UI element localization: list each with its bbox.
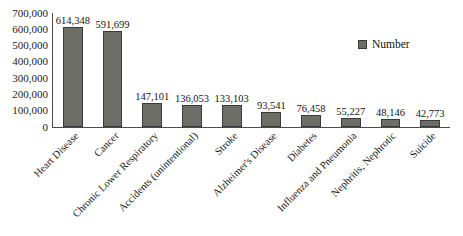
bar-chart: 700,000600,000500,000400,000300,000200,0… — [0, 0, 463, 236]
legend-label-number: Number — [372, 38, 410, 50]
chart-legend: Number — [358, 38, 410, 50]
legend-swatch-number — [358, 40, 367, 49]
x-axis: Heart DiseaseCancerChronic Lower Respira… — [0, 0, 463, 236]
